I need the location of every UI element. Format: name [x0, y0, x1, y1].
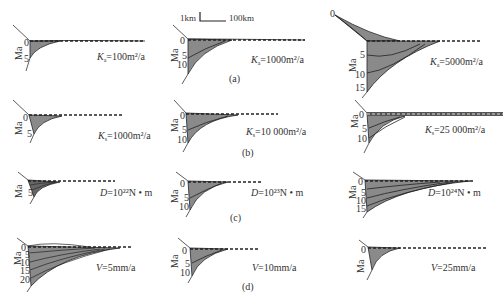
tick-label: 10 [180, 267, 190, 278]
plot-d2: 0 5 10 Ma V=10mm/a (d) [169, 238, 297, 293]
panel-label-b: (b) [242, 147, 254, 159]
figure-canvas: 1km 100km 0 5 Ma Ka=100m²/a 0 5 10 Ma Ka… [0, 0, 503, 301]
axis-label-ma: Ma [347, 185, 358, 199]
param-label: D=10²²N • m [99, 187, 153, 198]
axis-label-ma: Ma [169, 118, 180, 132]
axis-label-ma: Ma [13, 184, 24, 198]
scale-bar: 1km 100km [180, 12, 254, 23]
plot-d1: 0 5 10 15 20 Ma V=5mm/a [12, 238, 136, 292]
panel-label-a: (a) [229, 73, 240, 85]
axis-label-ma: Ma [13, 46, 24, 60]
tick-label: 15 [356, 203, 366, 214]
panel-label-d: (d) [242, 281, 254, 293]
plot-c1: 5 Ma D=10²²N • m [13, 172, 153, 204]
plot-d3: 0 Ma V=25mm/a [355, 240, 487, 280]
param-label: V=25mm/a [431, 262, 476, 273]
plot-a1: 0 5 Ma Ka=100m²/a [13, 25, 146, 71]
tick-label: 10 [179, 201, 189, 212]
tick-label: 0 [358, 176, 363, 187]
plot-a3: 0 5 10 15 Ma Ka=5000m²/a [330, 8, 484, 98]
tick-label: 5 [27, 128, 32, 139]
tick-label: 0 [24, 37, 29, 48]
axis-label-ma: Ma [349, 114, 360, 128]
plot-b2: 0 5 10 Ma Ks=10 000m²/a (b) [169, 100, 307, 159]
tick-label: 0 [361, 244, 366, 255]
param-label: Ka=1000m²/a [250, 54, 305, 66]
param-label: Ks=10 000m²/a [245, 126, 307, 138]
tick-label: 0 [330, 8, 335, 19]
tick-label: 15 [355, 82, 365, 93]
param-label: Ks=25 000m²/a [424, 124, 486, 136]
axis-label-ma: Ma [355, 259, 366, 273]
scale-horizontal-label: 100km [229, 13, 254, 23]
tick-label: 10 [177, 134, 187, 145]
param-label: V=5mm/a [96, 262, 136, 273]
param-label: Ka=100m²/a [96, 51, 146, 63]
param-label: Ka=5000m²/a [429, 56, 484, 68]
axis-label-ma: Ma [169, 189, 180, 203]
plot-c2: 0 5 10 Ma D=10²³N • m (c) [169, 172, 304, 224]
axis-label-ma: Ma [169, 48, 180, 62]
plot-b3: 0 5 10 Ma Ks=25 000m²/a [349, 100, 503, 153]
scale-vertical-label: 1km [180, 13, 196, 23]
param-label: D=10²⁴N • m [427, 187, 481, 198]
plot-c3: 0 5 10 15 Ma D=10²⁴N • m [347, 172, 481, 218]
axis-label-ma: Ma [347, 58, 358, 72]
tick-label: 5 [360, 49, 365, 60]
param-label: Ks=1000m²/a [97, 130, 151, 142]
tick-label: 5 [28, 187, 33, 198]
param-label: V=10mm/a [252, 262, 297, 273]
tick-label: 20 [20, 274, 30, 285]
axis-label-ma: Ma [169, 254, 180, 268]
panel-label-c: (c) [230, 212, 241, 224]
param-label: D=10²³N • m [250, 187, 304, 198]
tick-label: 0 [180, 110, 185, 121]
tick-label: 0 [180, 35, 185, 46]
plot-b1: 0 5 Ma Ks=1000m²/a [13, 100, 151, 143]
tick-label: 0 [182, 245, 187, 256]
plot-a2: 0 5 10 Ma Ka=1000m²/a (a) [169, 25, 305, 85]
tick-label: 0 [180, 178, 185, 189]
axis-label-ma: Ma [13, 121, 24, 135]
tick-label: 5 [24, 53, 29, 64]
tick-label: 0 [23, 112, 28, 123]
tick-label: 10 [357, 133, 367, 144]
axis-label-ma: Ma [12, 251, 23, 265]
